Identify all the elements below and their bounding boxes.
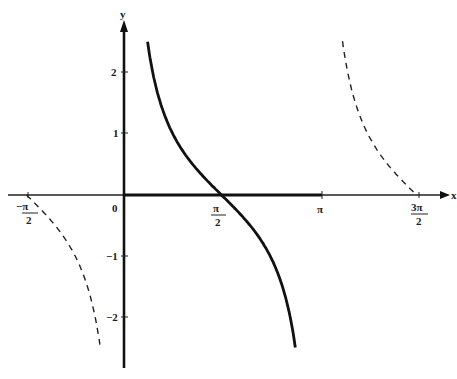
x-axis-arrow-icon <box>440 191 450 199</box>
svg-text:2: 2 <box>416 215 422 227</box>
svg-text:2: 2 <box>215 216 221 228</box>
y-axis-arrow-icon <box>120 20 128 32</box>
y-axis-label: y <box>120 8 126 20</box>
cotangent-graph: x y 2 1 −1 −2 0 −π 2 π 2 π 3π 2 <box>0 0 457 379</box>
svg-text:−π: −π <box>16 200 28 212</box>
y-tick-label-2: 2 <box>111 66 117 78</box>
cot-curve-dashed-left <box>27 195 101 348</box>
x-tick-label-three-half-pi: 3π 2 <box>411 201 428 227</box>
svg-text:2: 2 <box>26 214 32 226</box>
y-tick-label-m2: −2 <box>106 311 118 323</box>
origin-label: 0 <box>112 202 118 214</box>
y-tick-label-1: 1 <box>113 127 119 139</box>
svg-text:3π: 3π <box>411 201 423 213</box>
svg-text:π: π <box>213 202 219 214</box>
cot-curve-dashed-right <box>343 41 417 195</box>
y-tick-label-m1: −1 <box>106 250 118 262</box>
x-axis-label: x <box>451 189 457 201</box>
x-tick-label-pi: π <box>317 203 323 215</box>
x-tick-label-half-pi: π 2 <box>211 202 226 228</box>
